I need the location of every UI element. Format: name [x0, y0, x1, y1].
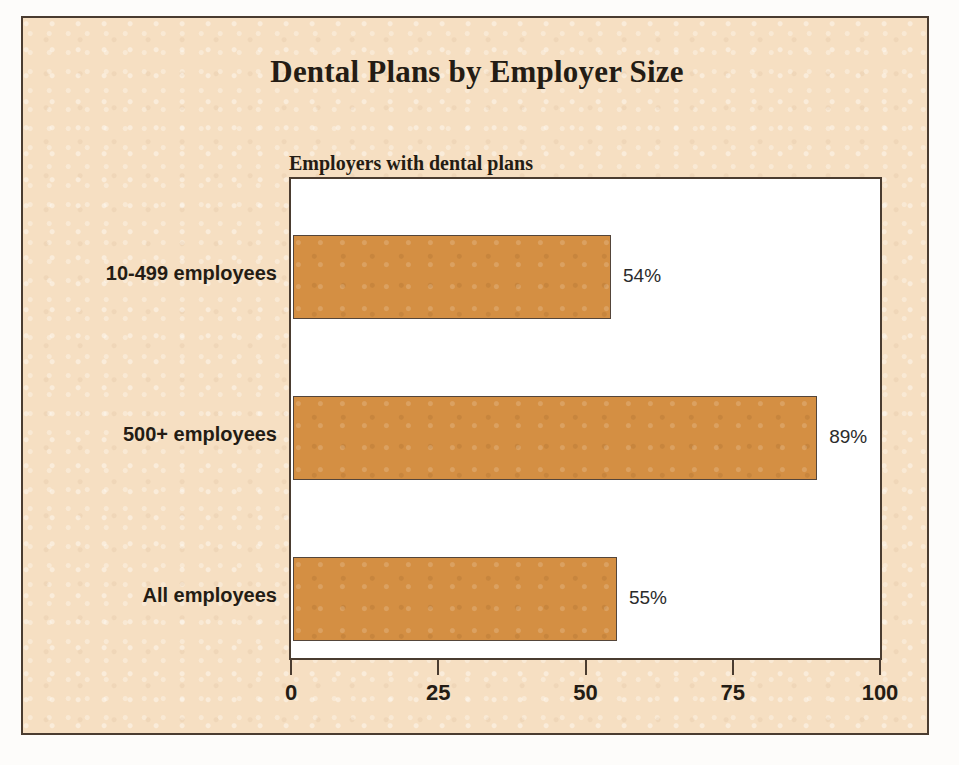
bar-all-employees — [293, 557, 617, 641]
category-label-500-plus-employees: 500+ employees — [27, 423, 277, 446]
x-axis-tick-mark — [732, 660, 734, 675]
category-label-10-499-employees: 10-499 employees — [27, 262, 277, 285]
x-axis-tick-mark — [290, 660, 292, 675]
x-axis-tick-mark — [437, 660, 439, 675]
x-axis-tick-label: 100 — [862, 680, 899, 706]
chart-title: Dental Plans by Employer Size — [23, 54, 931, 90]
value-label-all-employees: 55% — [629, 587, 667, 609]
bar-10-499-employees — [293, 235, 611, 319]
x-axis-tick-label: 0 — [285, 680, 297, 706]
chart-panel: Dental Plans by Employer Size Employers … — [21, 16, 929, 735]
chart-figure: Dental Plans by Employer Size Employers … — [0, 0, 959, 765]
x-axis-tick-label: 50 — [573, 680, 597, 706]
bar-500-plus-employees — [293, 396, 817, 480]
value-label-500-plus-employees: 89% — [829, 426, 867, 448]
x-axis-tick-label: 25 — [426, 680, 450, 706]
category-label-all-employees: All employees — [27, 584, 277, 607]
chart-subtitle: Employers with dental plans — [289, 152, 533, 175]
x-axis-tick-mark — [879, 660, 881, 675]
x-axis-tick-label: 75 — [721, 680, 745, 706]
value-label-10-499-employees: 54% — [623, 265, 661, 287]
x-axis-tick-mark — [585, 660, 587, 675]
plot-area: 54% 89% 55% — [289, 177, 882, 660]
